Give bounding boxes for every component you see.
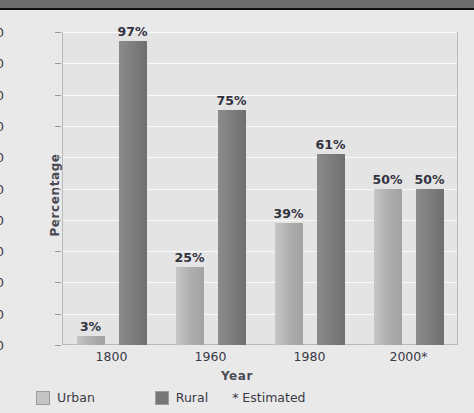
y-axis-tick-mark (55, 314, 61, 315)
y-axis-tick-label: 10 (0, 306, 4, 321)
y-axis-tick-mark (55, 32, 61, 33)
y-axis-tick-label: 50 (0, 181, 4, 196)
bar-chart-figure: Percentage 0102030405060708090100 3%97%2… (0, 0, 474, 413)
bar-value-label: 97% (118, 24, 148, 39)
bar-value-label: 50% (373, 172, 403, 187)
bar-urban-2000 (374, 189, 402, 346)
bar-value-label: 25% (175, 250, 205, 265)
bar-urban-1800 (77, 336, 105, 345)
legend-swatch-rural-icon (155, 391, 169, 405)
y-axis-tick-label: 20 (0, 275, 4, 290)
bar-value-label: 39% (274, 206, 304, 221)
y-axis-tick-mark (55, 220, 61, 221)
chart-legend: Urban Rural * Estimated (36, 390, 306, 405)
y-axis-tick-label: 80 (0, 87, 4, 102)
y-axis-tick-mark (55, 126, 61, 127)
bar-urban-1980 (275, 223, 303, 345)
x-axis-label: Year (0, 369, 474, 383)
x-axis-tick-label: 2000* (389, 349, 427, 364)
y-axis-tick-label: 30 (0, 244, 4, 259)
y-axis-label: Percentage (48, 135, 62, 255)
y-axis-tick-mark (55, 95, 61, 96)
bar-value-label: 50% (415, 172, 445, 187)
y-axis-tick-label: 90 (0, 56, 4, 71)
y-axis-tick-mark (55, 345, 61, 346)
y-axis-tick-label: 0 (0, 338, 4, 353)
y-axis-tick-label: 40 (0, 212, 4, 227)
bar-value-label: 75% (217, 93, 247, 108)
title-bar (0, 0, 474, 10)
y-axis-tick-label: 60 (0, 150, 4, 165)
y-axis-tick-mark (55, 189, 61, 190)
y-axis-tick-mark (55, 157, 61, 158)
legend-label-urban: Urban (57, 390, 95, 405)
legend-label-rural: Rural (176, 390, 208, 405)
bar-rural-1980 (317, 154, 345, 345)
legend-item-urban: Urban (36, 390, 95, 405)
bar-value-label: 61% (316, 137, 346, 152)
bar-rural-2000 (416, 189, 444, 346)
bar-urban-1960 (176, 267, 204, 345)
x-axis-tick-label: 1800 (96, 349, 128, 364)
bar-rural-1800 (119, 41, 147, 345)
legend-swatch-urban-icon (36, 391, 50, 405)
y-axis-tick-mark (55, 251, 61, 252)
y-axis-tick-mark (55, 282, 61, 283)
bar-value-label: 3% (80, 319, 101, 334)
x-axis-tick-label: 1980 (294, 349, 326, 364)
legend-footnote: * Estimated (232, 390, 305, 405)
legend-item-rural: Rural (155, 390, 208, 405)
y-axis-tick-label: 100 (0, 25, 4, 40)
y-axis-tick-mark (55, 63, 61, 64)
bar-rural-1960 (218, 110, 246, 345)
x-axis-tick-label: 1960 (195, 349, 227, 364)
y-axis-tick-label: 70 (0, 118, 4, 133)
